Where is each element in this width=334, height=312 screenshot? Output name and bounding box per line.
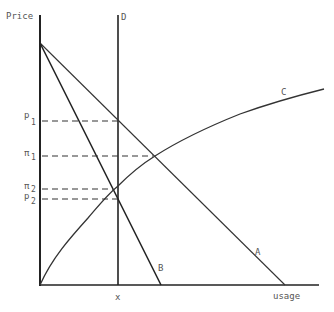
svg-text:2: 2 [31, 185, 36, 194]
line-a-label: A [255, 247, 261, 257]
curve-c [40, 89, 324, 285]
line-d-label: D [121, 12, 126, 22]
svg-text:p: p [24, 191, 29, 201]
svg-text:π: π [24, 148, 30, 158]
curve-c-label: C [281, 87, 286, 97]
x-axis-label: usage [273, 291, 300, 301]
svg-text:2: 2 [31, 197, 36, 206]
line-b-label: B [158, 263, 163, 273]
line-a [40, 43, 285, 285]
label-p1: p 1 [24, 110, 36, 127]
svg-text:p: p [24, 110, 29, 120]
label-pi1: π 1 [24, 148, 36, 162]
x-tick-label: x [115, 292, 121, 302]
svg-text:1: 1 [31, 118, 36, 127]
svg-text:1: 1 [31, 153, 36, 162]
y-axis-label: Price [6, 11, 33, 21]
price-usage-diagram: Price usage D x A B C p 1 π 1 π 2 p 2 [0, 0, 334, 312]
svg-text:π: π [24, 181, 30, 191]
